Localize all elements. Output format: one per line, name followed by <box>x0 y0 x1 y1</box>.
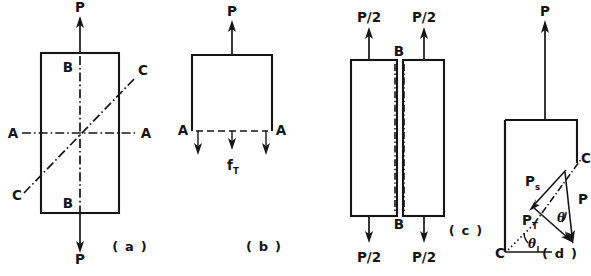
panel-a-force-bottom-label: P <box>75 251 85 267</box>
panel-a: P P B B A A C C ( a ) <box>8 0 152 267</box>
panel-d-caption: ( d ) <box>542 246 578 261</box>
panel-d-resultant-label: P <box>578 191 588 207</box>
panel-b: P A A fT ( b ) <box>178 3 287 254</box>
panel-d-force-top-label: P <box>540 3 550 19</box>
engineering-diagram-svg: P P B B A A C C ( a ) <box>0 0 591 276</box>
panel-b-stress-label: fT <box>227 157 239 176</box>
panel-b-force-top-label: P <box>227 3 237 19</box>
panel-d-tangential-component-label: PT <box>522 212 538 231</box>
panel-c-force-top-left-label: P/2 <box>357 9 381 25</box>
panel-b-section-a-right-label: A <box>276 122 287 138</box>
panel-a-force-top-label: P <box>75 0 85 15</box>
panel-b-section-a-left-label: A <box>178 122 189 138</box>
panel-d: P C C Ps PT P θ θ ( d ) <box>495 3 591 261</box>
panel-a-section-b-top-label: B <box>63 59 73 75</box>
panel-c-section-b-top-label: B <box>394 43 404 59</box>
panel-d-section-c-label: C <box>495 245 505 261</box>
panel-b-freebody-outline <box>192 55 272 131</box>
panel-d-section-c-corner-label: C <box>581 150 591 166</box>
panel-d-normal-component-symbol: P <box>525 173 535 189</box>
panel-d-angle-lower-label: θ <box>528 237 536 251</box>
panel-b-caption: ( b ) <box>246 239 282 254</box>
panel-c-right-half-outline <box>403 60 444 216</box>
panel-c-left-half-outline <box>351 60 397 216</box>
panel-c: P/2 P/2 P/2 P/2 B B ( c ) <box>351 9 483 265</box>
panel-b-stress-subscript: T <box>233 166 239 176</box>
panel-c-section-b-bottom-label: B <box>394 216 404 232</box>
panel-a-section-c-upper-label: C <box>138 62 148 78</box>
panel-a-section-a-right-label: A <box>141 125 152 141</box>
panel-d-tangential-component-subscript: T <box>532 221 538 231</box>
panel-d-normal-component-label: Ps <box>525 173 540 192</box>
panel-d-tangential-component-symbol: P <box>522 212 532 228</box>
panel-d-normal-component-subscript: s <box>535 182 540 192</box>
panel-d-resultant-shaft <box>565 172 572 236</box>
panel-b-stress-arrows <box>194 131 270 155</box>
panel-a-section-a-left-label: A <box>8 125 19 141</box>
panel-d-angle-upper-label: θ <box>557 211 565 225</box>
panel-a-section-b-bottom-label: B <box>63 195 73 211</box>
panel-c-force-top-right-label: P/2 <box>412 9 436 25</box>
panel-c-force-bottom-right-label: P/2 <box>412 249 436 265</box>
panel-a-caption: ( a ) <box>112 239 148 254</box>
figure-root: P P B B A A C C ( a ) <box>0 0 591 276</box>
panel-c-caption: ( c ) <box>449 223 484 238</box>
panel-a-section-c-lower-label: C <box>12 187 22 203</box>
panel-c-force-bottom-left-label: P/2 <box>357 249 381 265</box>
